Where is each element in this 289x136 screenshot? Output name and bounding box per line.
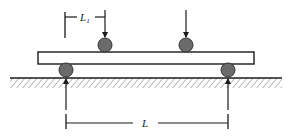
support-roller-right [221,63,235,77]
ground [10,78,282,88]
dimension-l: L [66,114,228,129]
dimension-l1: L1 [65,11,105,38]
ground-hatch [10,78,282,88]
support-roller-left [59,63,73,77]
loading-roller-left [98,38,112,52]
label-l: L [141,117,148,129]
label-l1: L1 [79,11,90,25]
beam-specimen [38,52,254,64]
loading-roller-right [179,38,193,52]
four-point-bending-diagram: L1 L [0,0,289,136]
